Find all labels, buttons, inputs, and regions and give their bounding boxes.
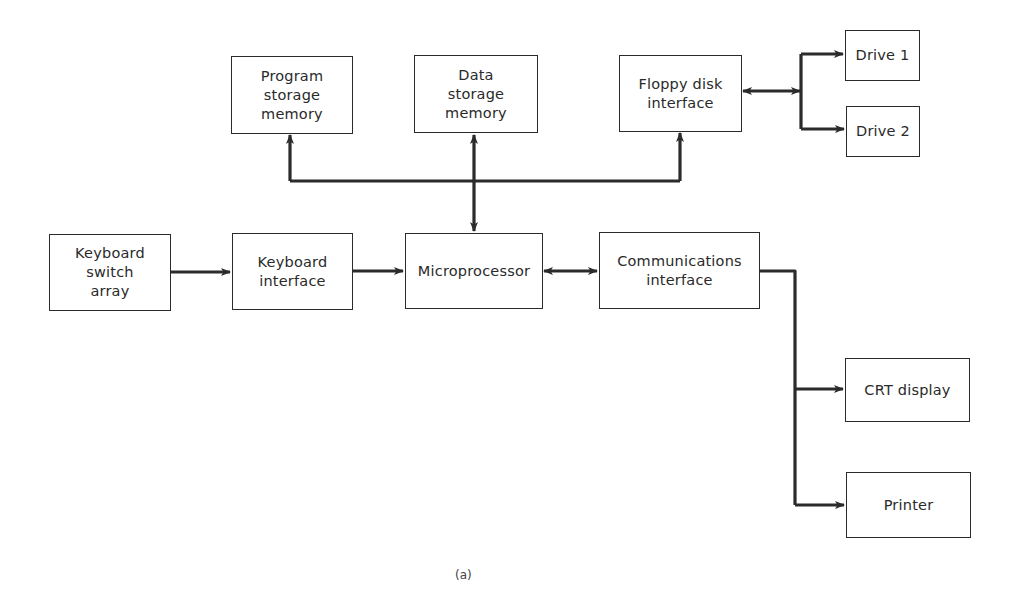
comm-output-bus: [760, 271, 795, 505]
drive-2-block: Drive 2: [846, 106, 920, 157]
keyboard-interface-label: Keyboard interface: [258, 253, 328, 291]
data-storage-memory-label: Data storage memory: [445, 66, 507, 123]
printer-label: Printer: [884, 496, 934, 515]
communications-interface-block: Communications interface: [599, 232, 760, 309]
keyboard-interface-block: Keyboard interface: [232, 233, 353, 310]
printer-block: Printer: [846, 472, 971, 538]
microprocessor-label: Microprocessor: [418, 262, 530, 281]
floppy-disk-interface-label: Floppy disk interface: [638, 75, 722, 113]
drive-2-label: Drive 2: [856, 122, 910, 141]
keyboard-switch-array-label: Keyboard switch array: [75, 244, 145, 301]
data-storage-memory-block: Data storage memory: [414, 55, 538, 133]
drive-1-block: Drive 1: [845, 30, 920, 81]
crt-display-label: CRT display: [864, 381, 950, 400]
program-storage-memory-block: Program storage memory: [231, 56, 353, 134]
keyboard-switch-array-block: Keyboard switch array: [49, 234, 171, 311]
figure-caption: (a): [455, 568, 472, 582]
floppy-disk-interface-block: Floppy disk interface: [619, 55, 742, 132]
crt-display-block: CRT display: [845, 358, 970, 422]
program-storage-memory-label: Program storage memory: [261, 67, 324, 124]
microprocessor-block: Microprocessor: [405, 233, 543, 309]
communications-interface-label: Communications interface: [617, 252, 742, 290]
drive-1-label: Drive 1: [856, 46, 910, 65]
